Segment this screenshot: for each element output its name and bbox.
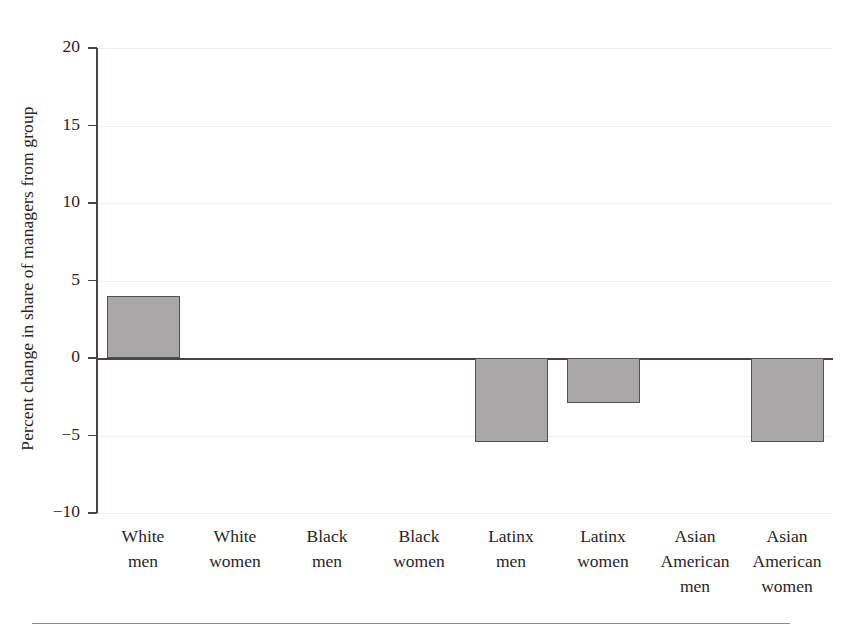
y-axis-tick-label: 10 [28,191,80,212]
category-label-line: Black [281,524,373,549]
category-label-line: White [189,524,281,549]
y-axis-tick-label: 0 [28,346,80,367]
y-axis-tick [88,512,97,513]
bar [107,296,180,358]
category-label-line: Latinx [465,524,557,549]
y-axis-tick-label: −10 [28,501,80,522]
x-axis-category-label: Blackmen [281,524,373,574]
category-label-line: women [557,549,649,574]
category-label-line: women [373,549,465,574]
bar-chart-figure: Percent change in share of managers from… [0,0,863,637]
y-axis-tick [88,357,97,358]
category-label-line: men [465,549,557,574]
y-axis-tick [88,125,97,126]
y-axis-tick [88,280,97,281]
category-label-line: Asian [741,524,833,549]
bottom-rule [32,623,790,624]
gridline [97,48,833,49]
x-axis-category-label: Whitemen [97,524,189,574]
category-label-line: White [97,524,189,549]
zero-baseline [97,358,833,360]
gridline [97,436,833,437]
y-axis-tick-label: 15 [28,114,80,135]
y-axis-tick-label: 5 [28,269,80,290]
bar [475,358,548,442]
y-axis-tick-label: −5 [28,424,80,445]
category-label-line: Latinx [557,524,649,549]
x-axis-category-label: Latinxmen [465,524,557,574]
category-label-line: Black [373,524,465,549]
gridline [97,281,833,282]
gridline [97,513,833,514]
x-axis-category-label: AsianAmericanwomen [741,524,833,599]
bar [751,358,824,442]
x-axis-category-label: Latinxwomen [557,524,649,574]
y-axis-tick-label: 20 [28,36,80,57]
x-axis-category-label: Whitewomen [189,524,281,574]
category-label-line: women [741,574,833,599]
category-label-line: men [281,549,373,574]
x-axis-category-label: Blackwomen [373,524,465,574]
gridline [97,203,833,204]
category-label-line: men [97,549,189,574]
category-label-line: Asian [649,524,741,549]
x-axis-category-label: AsianAmericanmen [649,524,741,599]
y-axis-tick [88,202,97,203]
category-label-line: women [189,549,281,574]
category-label-line: men [649,574,741,599]
category-label-line: American [649,549,741,574]
bar [567,358,640,403]
y-axis-tick [88,435,97,436]
gridline [97,126,833,127]
category-label-line: American [741,549,833,574]
y-axis-tick [88,47,97,48]
